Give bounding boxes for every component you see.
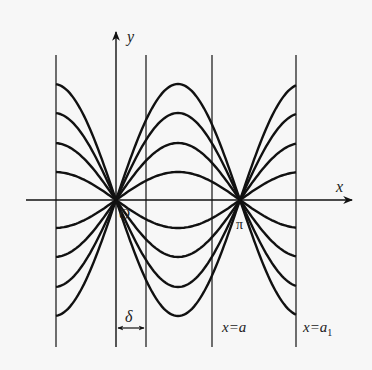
vertical-lines	[56, 55, 296, 347]
x-eq-a-label: x=a	[221, 319, 246, 335]
pi-label: π	[236, 217, 243, 232]
y-axis-label: y	[125, 28, 135, 46]
origin-label: O	[119, 206, 130, 222]
x-eq-a1-label: x=a1	[302, 319, 332, 338]
x-axis-label: x	[335, 178, 343, 195]
sine-family-diagram: y x O π δ x=a x=a1	[0, 0, 372, 370]
delta-label: δ	[125, 308, 133, 325]
